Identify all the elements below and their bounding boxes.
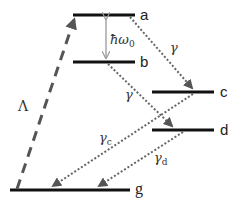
gamma-bd-label: γ bbox=[125, 87, 133, 102]
energy-level-diagram: a b c d g Λ ħω0 γ γ γc γd bbox=[0, 0, 237, 210]
pump-label: Λ bbox=[17, 98, 29, 114]
gamma-d-label: γd bbox=[154, 150, 168, 167]
level-g-label: g bbox=[135, 180, 143, 198]
level-d-label: d bbox=[220, 121, 228, 138]
gamma-ac-label: γ bbox=[170, 40, 178, 55]
level-c-label: c bbox=[220, 83, 228, 100]
level-b-label: b bbox=[140, 53, 148, 70]
splitting-label: ħω0 bbox=[110, 32, 135, 49]
level-a-label: a bbox=[140, 6, 149, 23]
decay-b-d-arrow bbox=[108, 64, 172, 126]
gamma-c-label: γc bbox=[99, 130, 112, 147]
